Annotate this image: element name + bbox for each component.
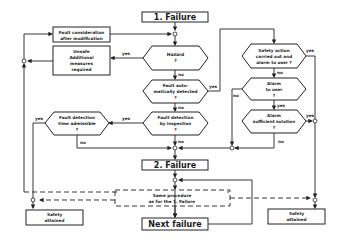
junction-lower: [173, 178, 177, 182]
svg-text:Alarm: Alarm: [267, 113, 282, 118]
svg-text:required: required: [71, 67, 91, 72]
node-safety-left: Safety attained: [26, 210, 83, 225]
node-unsafe: Unsafe Additional measures required: [53, 46, 110, 75]
fault-flowchart: 1. Failure Fault consideration after mod…: [0, 0, 340, 240]
svg-text:Fault auto-: Fault auto-: [163, 83, 189, 88]
junction-top: [173, 32, 177, 36]
junction-left: [22, 59, 26, 63]
label-auto-yes: yes: [209, 84, 218, 89]
svg-text:matically detected: matically detected: [154, 89, 198, 94]
node-fault-auto: Fault auto- matically detected ?: [143, 80, 208, 103]
label-alarm-sufficient-no: no: [278, 139, 284, 144]
label-time-yes: yes: [35, 116, 44, 121]
svg-text:measures: measures: [70, 61, 93, 66]
edge-time-junction: [77, 135, 171, 148]
node-fault-consideration: Fault consideration after modification: [53, 27, 110, 42]
failure1-label: 1. Failure: [154, 13, 197, 22]
svg-text:as for the 1. Failure: as for the 1. Failure: [149, 199, 196, 204]
label-alarm-sufficient-yes: yes: [306, 113, 315, 118]
edge-safety-yes: [306, 56, 315, 119]
node-alarm-sufficient: Alarm sufficient solution ?: [242, 110, 306, 133]
node-next-failure: Next failure: [142, 218, 208, 230]
label-inspection-yes: yes: [122, 116, 131, 121]
junction-right-bottom: [313, 198, 317, 202]
label-alarm-user-yes: yes: [277, 103, 286, 108]
node-safety-right: Safety attained: [268, 209, 325, 224]
label-time-no: no: [80, 140, 86, 145]
junction-right-mid: [230, 146, 234, 150]
svg-text:alarm to user ?: alarm to user ?: [256, 60, 292, 65]
label-hazard-yes: yes: [122, 51, 131, 56]
node-failure2: 2. Failure: [142, 160, 208, 170]
svg-text:Fault detection: Fault detection: [59, 115, 95, 120]
svg-text:by inspection: by inspection: [160, 121, 192, 126]
svg-text:Fault detection: Fault detection: [158, 115, 194, 120]
node-failure1: 1. Failure: [142, 12, 208, 22]
junction-mid: [173, 146, 177, 150]
svg-text:attained: attained: [287, 217, 307, 222]
node-safety-action: Safety action carried out and alarm to u…: [242, 44, 306, 68]
svg-text:Unsafe: Unsafe: [73, 49, 90, 54]
node-same-procedure: Same procedure as for the 1. Failure: [118, 191, 227, 205]
label-alarm-user-no: no: [233, 93, 239, 98]
svg-text:Safety: Safety: [289, 211, 305, 216]
svg-text:after modification: after modification: [60, 36, 102, 41]
edge-left-consideration: [24, 34, 52, 59]
junction-right-top: [313, 119, 317, 123]
label-safety-action-no: no: [277, 70, 283, 75]
label-inspection-no: no: [178, 139, 184, 144]
svg-text:Fault consideration: Fault consideration: [59, 30, 105, 35]
svg-text:to user: to user: [266, 87, 284, 92]
svg-text:time admissible: time admissible: [58, 121, 96, 126]
svg-text:sufficient solution: sufficient solution: [253, 119, 295, 124]
node-hazard: Hazard ?: [143, 46, 208, 70]
svg-text:Hazard: Hazard: [167, 52, 184, 57]
svg-text:carried out and: carried out and: [256, 54, 292, 59]
label-safety-action-yes: yes: [306, 48, 315, 53]
svg-text:Safety: Safety: [47, 212, 63, 217]
svg-text:Safety action: Safety action: [258, 48, 289, 53]
node-fault-inspection: Fault detection by inspection ?: [143, 112, 208, 135]
svg-text:Additional: Additional: [69, 55, 94, 60]
svg-text:Same procedure: Same procedure: [153, 193, 192, 198]
svg-text:?: ?: [174, 58, 177, 63]
node-fault-time: Fault detection time admissible ?: [45, 112, 109, 135]
edge-time-safety: [33, 123, 45, 208]
junction-left-bottom: [31, 198, 35, 202]
label-hazard-no: no: [178, 72, 184, 77]
node-alarm-user: Alarm to user ?: [242, 78, 306, 100]
edge-sufficient-no: [235, 133, 274, 148]
svg-text:Alarm: Alarm: [267, 81, 282, 86]
label-auto-no: no: [178, 105, 184, 110]
svg-text:Next failure: Next failure: [148, 220, 202, 229]
svg-text:2. Failure: 2. Failure: [154, 161, 197, 170]
svg-text:attained: attained: [45, 218, 65, 223]
